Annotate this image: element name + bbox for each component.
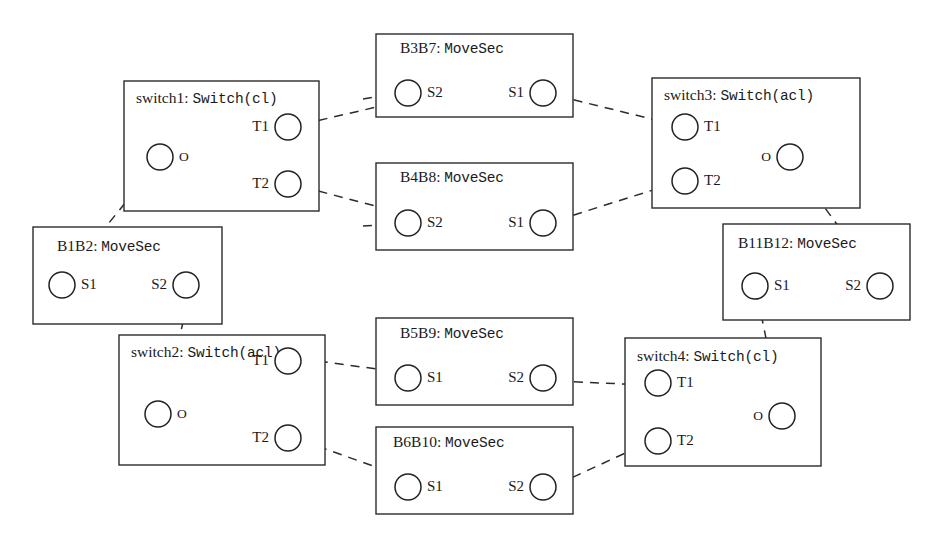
port-circle-icon[interactable]: [173, 272, 199, 298]
port-circle-icon[interactable]: [530, 210, 556, 236]
component-instance-name: B11B12:: [738, 234, 797, 251]
port-circle-icon[interactable]: [672, 168, 698, 194]
port-label: O: [177, 406, 187, 421]
port-label: T1: [704, 118, 721, 134]
port-label: S2: [427, 84, 443, 100]
component-B4B8[interactable]: B4B8: MoveSecS2S1: [376, 163, 573, 250]
port-label: T2: [704, 172, 721, 188]
port-label: T1: [252, 352, 269, 368]
component-switch3[interactable]: switch3: Switch(acl)T1T2O: [652, 78, 860, 208]
port-circle-icon[interactable]: [147, 144, 173, 170]
port-circle-icon[interactable]: [395, 474, 421, 500]
component-type-name: MoveSec: [444, 326, 504, 342]
port-label: S2: [845, 277, 861, 293]
component-title: B6B10: MoveSec: [393, 433, 505, 451]
component-instance-name: switch3:: [664, 86, 720, 103]
component-B5B9[interactable]: B5B9: MoveSecS1S2: [376, 318, 573, 405]
port-label: S2: [508, 478, 524, 494]
component-instance-name: B3B7:: [400, 39, 444, 56]
component-B11B12[interactable]: B11B12: MoveSecS1S2: [723, 224, 910, 320]
component-B1B2[interactable]: B1B2: MoveSecS1S2: [33, 227, 222, 324]
diagram-root: switch1: Switch(cl)OT1T2switch2: Switch(…: [0, 0, 942, 539]
component-instance-name: B4B8:: [400, 168, 444, 185]
port-circle-icon[interactable]: [275, 114, 301, 140]
component-type-name: MoveSec: [444, 170, 504, 186]
component-B3B7[interactable]: B3B7: MoveSecS2S1: [376, 34, 573, 117]
component-switch4[interactable]: switch4: Switch(cl)T1T2O: [625, 338, 821, 466]
component-switch2[interactable]: switch2: Switch(acl)OT1T2: [119, 335, 325, 465]
port-label: S1: [427, 478, 443, 494]
port-label: S1: [508, 84, 524, 100]
component-type-name: MoveSec: [797, 236, 857, 252]
component-instance-name: switch2:: [131, 343, 187, 360]
component-instance-name: B1B2:: [57, 237, 101, 254]
port-label: S1: [774, 277, 790, 293]
component-type-name: Switch(cl): [192, 91, 277, 107]
component-B6B10[interactable]: B6B10: MoveSecS1S2: [376, 427, 573, 514]
port-circle-icon[interactable]: [275, 348, 301, 374]
port-circle-icon[interactable]: [742, 273, 768, 299]
port-circle-icon[interactable]: [530, 80, 556, 106]
component-title: B1B2: MoveSec: [57, 237, 161, 255]
diagram-canvas: switch1: Switch(cl)OT1T2switch2: Switch(…: [0, 0, 942, 539]
port-circle-icon[interactable]: [769, 403, 795, 429]
component-instance-name: B6B10:: [393, 433, 445, 450]
port-circle-icon[interactable]: [275, 171, 301, 197]
component-instance-name: B5B9:: [400, 324, 444, 341]
port-label: S1: [81, 276, 97, 292]
component-title: B4B8: MoveSec: [400, 168, 504, 186]
port-circle-icon[interactable]: [275, 425, 301, 451]
port-label: O: [753, 408, 763, 423]
port-label: T2: [252, 175, 269, 191]
port-circle-icon[interactable]: [145, 401, 171, 427]
component-instance-name: switch4:: [637, 347, 693, 364]
component-type-name: MoveSec: [101, 239, 161, 255]
port-circle-icon[interactable]: [672, 114, 698, 140]
port-circle-icon[interactable]: [395, 210, 421, 236]
port-circle-icon[interactable]: [867, 273, 893, 299]
port-label: S1: [508, 214, 524, 230]
component-title: B5B9: MoveSec: [400, 324, 504, 342]
port-label: T2: [677, 432, 694, 448]
port-circle-icon[interactable]: [530, 365, 556, 391]
port-label: S1: [427, 369, 443, 385]
component-title: B11B12: MoveSec: [738, 234, 857, 252]
port-label: S2: [151, 276, 167, 292]
port-label: T1: [677, 374, 694, 390]
port-label: T1: [252, 118, 269, 134]
component-switch1[interactable]: switch1: Switch(cl)OT1T2: [124, 81, 319, 211]
port-circle-icon[interactable]: [49, 272, 75, 298]
port-circle-icon[interactable]: [645, 370, 671, 396]
component-type-name: Switch(cl): [693, 349, 778, 365]
port-label: T2: [252, 429, 269, 445]
component-title: switch3: Switch(acl): [664, 86, 814, 104]
component-instance-name: switch1:: [136, 89, 192, 106]
port-label: S2: [508, 369, 524, 385]
component-title: B3B7: MoveSec: [400, 39, 504, 57]
port-circle-icon[interactable]: [395, 80, 421, 106]
components-layer: switch1: Switch(cl)OT1T2switch2: Switch(…: [33, 34, 910, 514]
component-type-name: Switch(acl): [720, 88, 814, 104]
component-type-name: MoveSec: [444, 41, 504, 57]
port-label: O: [761, 149, 771, 164]
port-label: O: [179, 149, 189, 164]
port-circle-icon[interactable]: [530, 474, 556, 500]
port-circle-icon[interactable]: [777, 144, 803, 170]
component-title: switch4: Switch(cl): [637, 347, 778, 365]
port-circle-icon[interactable]: [395, 365, 421, 391]
port-circle-icon[interactable]: [645, 428, 671, 454]
component-type-name: MoveSec: [445, 435, 505, 451]
port-label: S2: [427, 214, 443, 230]
component-title: switch1: Switch(cl): [136, 89, 277, 107]
